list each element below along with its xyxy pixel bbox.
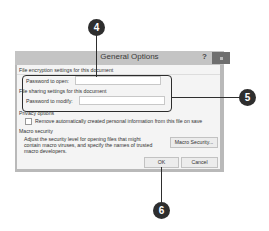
close-button[interactable] [212, 52, 230, 64]
remove-info-checkbox[interactable] [25, 118, 32, 125]
encryption-section-label: File encryption settings for this docume… [19, 67, 113, 73]
macro-section-label: Macro security [19, 128, 53, 134]
remove-info-label: Remove automatically created personal in… [35, 118, 202, 124]
help-button[interactable]: ? [202, 52, 207, 61]
callout-5: 5 [239, 89, 256, 106]
macro-security-button[interactable]: Macro Security... [170, 137, 218, 148]
callout-6-leader [161, 167, 162, 203]
macro-text-line3: macro developers. [24, 148, 67, 154]
title-bar: General Options ? [15, 51, 224, 65]
password-fields-highlight [22, 75, 172, 112]
dialog-title: General Options [15, 52, 224, 61]
callout-5-leader [172, 97, 240, 98]
callout-6: 6 [153, 202, 170, 219]
cancel-button[interactable]: Cancel [181, 157, 218, 168]
callout-4-leader [96, 35, 97, 77]
callout-4: 4 [88, 19, 105, 36]
